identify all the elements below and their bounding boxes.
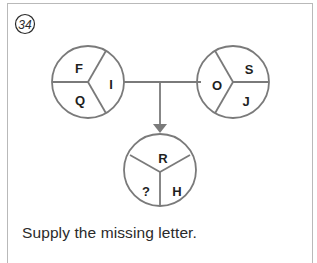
circle-right: O S J — [197, 46, 269, 118]
connector — [124, 82, 201, 125]
segment-letter: R — [158, 151, 168, 166]
segment-letter: F — [75, 61, 83, 76]
missing-letter-placeholder: ? — [142, 184, 150, 199]
circle-bottom: R ? H — [124, 134, 196, 206]
instruction-text: Supply the missing letter. — [22, 224, 197, 242]
segment-letter: O — [212, 78, 222, 93]
segment-letter: J — [242, 94, 249, 109]
segment-letter: H — [172, 184, 181, 199]
puzzle-number: 34 — [18, 18, 32, 32]
arrow-down-icon — [153, 124, 167, 133]
puzzle-number-badge: 34 — [16, 15, 35, 34]
segment-letter: S — [245, 62, 254, 77]
circle-left: F I Q — [52, 46, 124, 118]
segment-letter: I — [109, 77, 113, 92]
segment-letter: Q — [75, 93, 85, 108]
